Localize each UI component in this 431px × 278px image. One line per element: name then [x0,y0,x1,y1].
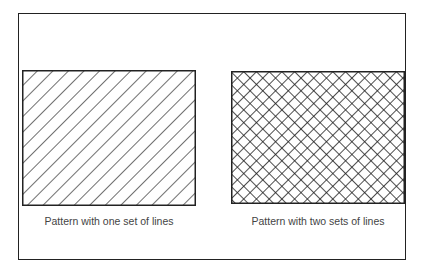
cross-hatch-caption: Pattern with two sets of lines [231,215,405,227]
cross-hatch-pattern [231,71,405,204]
diagonal-hatch-pattern [22,70,196,206]
cross-hatch-panel [231,71,405,204]
single-hatch-caption: Pattern with one set of lines [22,215,196,227]
single-hatch-panel [22,70,196,206]
